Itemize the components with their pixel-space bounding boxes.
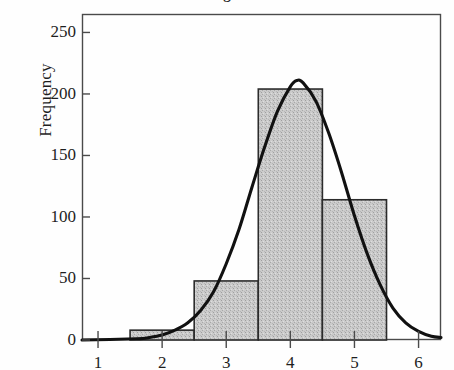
- x-tick-label: 5: [339, 354, 369, 370]
- x-tick-label: 3: [211, 354, 241, 370]
- histogram-bar: [258, 89, 322, 340]
- bars-group: [130, 89, 386, 340]
- x-tick-label: 4: [275, 354, 305, 370]
- plot-area: [82, 14, 441, 340]
- histogram-figure: g Frequency 050100150200250 123456: [0, 0, 454, 370]
- x-tick-label: 6: [404, 354, 434, 370]
- plot-svg: [82, 14, 441, 340]
- x-tick-label: 1: [83, 354, 113, 370]
- x-tick-label: 2: [147, 354, 177, 370]
